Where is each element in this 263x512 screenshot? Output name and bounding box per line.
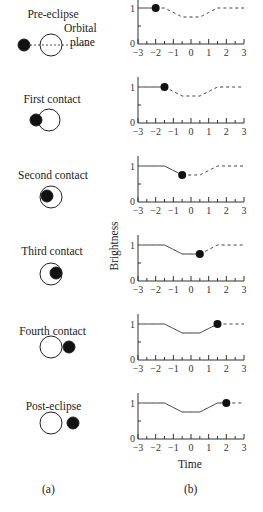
svg-text:0: 0 [189,126,194,137]
geometry-first-contact [30,109,60,131]
svg-text:−1: −1 [168,442,179,453]
svg-text:2: 2 [224,363,229,374]
svg-text:1: 1 [206,442,211,453]
plot-5: 01−3−2−10123 [130,393,247,453]
plot-1: 01−3−2−10123 [130,77,247,137]
svg-text:−2: −2 [150,205,161,216]
geometry-post-eclipse [40,412,79,434]
svg-text:−2: −2 [150,363,161,374]
svg-text:0: 0 [189,442,194,453]
svg-text:3: 3 [242,205,247,216]
svg-text:1: 1 [206,363,211,374]
svg-text:0: 0 [189,205,194,216]
svg-text:−3: −3 [133,205,144,216]
svg-text:3: 3 [242,126,247,137]
svg-text:3: 3 [242,363,247,374]
position-marker [161,83,169,91]
svg-text:3: 3 [242,47,247,58]
geometry-third-contact [40,263,62,285]
svg-text:−3: −3 [133,363,144,374]
plot-3: 01−3−2−10123 [130,235,247,295]
position-marker [214,320,222,328]
svg-text:−1: −1 [168,363,179,374]
svg-text:2: 2 [224,126,229,137]
svg-text:0: 0 [189,47,194,58]
plot-2: 01−3−2−10123 [130,156,247,216]
position-marker [196,250,204,258]
light-curve-plots: 01−3−2−1012301−3−2−1012301−3−2−1012301−3… [130,0,247,453]
svg-text:2: 2 [224,442,229,453]
svg-text:−3: −3 [133,442,144,453]
svg-text:1: 1 [206,47,211,58]
svg-text:−1: −1 [168,126,179,137]
svg-text:−3: −3 [133,126,144,137]
svg-text:−2: −2 [150,126,161,137]
svg-text:1: 1 [130,398,135,409]
svg-text:0: 0 [189,363,194,374]
svg-text:2: 2 [224,284,229,295]
svg-text:2: 2 [224,205,229,216]
svg-text:−1: −1 [168,284,179,295]
geometry-fourth-contact [40,336,75,358]
svg-text:−1: −1 [168,205,179,216]
svg-text:1: 1 [130,3,135,14]
svg-text:1: 1 [206,284,211,295]
svg-text:3: 3 [242,284,247,295]
svg-text:−3: −3 [133,47,144,58]
svg-text:3: 3 [242,442,247,453]
svg-text:1: 1 [130,319,135,330]
svg-text:−3: −3 [133,284,144,295]
svg-text:1: 1 [130,82,135,93]
svg-text:1: 1 [206,126,211,137]
position-marker [178,171,186,179]
plot-4: 01−3−2−10123 [130,314,247,374]
svg-text:2: 2 [224,47,229,58]
position-marker [152,4,160,12]
svg-text:−2: −2 [150,442,161,453]
svg-text:−2: −2 [150,47,161,58]
svg-text:−2: −2 [150,284,161,295]
plot-0: 01−3−2−10123 [130,0,247,58]
diagram-canvas: 01−3−2−1012301−3−2−1012301−3−2−1012301−3… [0,0,263,512]
svg-text:−1: −1 [168,47,179,58]
geometry-pre-eclipse [18,34,90,56]
position-marker [222,399,230,407]
svg-text:1: 1 [130,240,135,251]
svg-text:1: 1 [206,205,211,216]
geometry-second-contact [40,186,62,208]
svg-text:1: 1 [130,161,135,172]
svg-text:0: 0 [189,284,194,295]
